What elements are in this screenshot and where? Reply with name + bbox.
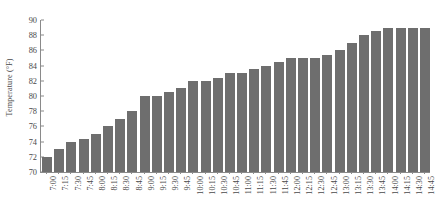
- x-axis-tick-label: 9:00: [147, 176, 156, 191]
- x-axis-tick-label: 9:15: [159, 176, 168, 191]
- x-axis-tick-mark: [265, 172, 266, 174]
- y-axis-tick-label: 72: [29, 152, 41, 161]
- x-axis-tick-label: 12:15: [305, 176, 314, 195]
- x-axis-tick-label: 11:15: [256, 176, 265, 194]
- bar: [335, 50, 345, 172]
- x-axis-line: [40, 172, 430, 173]
- x-axis-ticks: 7:007:157:307:458:008:158:308:459:009:15…: [40, 174, 430, 221]
- x-axis-tick-mark: [241, 172, 242, 174]
- x-axis-tick-mark: [58, 172, 59, 174]
- bar: [408, 28, 418, 172]
- y-axis-tick-label: 74: [29, 137, 41, 146]
- bar: [249, 69, 259, 172]
- x-axis-tick-label: 7:30: [74, 176, 83, 191]
- x-axis-tick-mark: [131, 172, 132, 174]
- x-axis-tick-label: 13:45: [378, 176, 387, 195]
- x-axis-tick-label: 7:00: [49, 176, 58, 191]
- bar: [261, 66, 271, 172]
- x-axis-tick-mark: [46, 172, 47, 174]
- y-axis-tick-label: 76: [29, 122, 41, 131]
- x-axis-tick-mark: [290, 172, 291, 174]
- x-axis-tick-mark: [144, 172, 145, 174]
- bar: [54, 149, 64, 172]
- x-axis-tick-mark: [400, 172, 401, 174]
- x-axis-tick-mark: [156, 172, 157, 174]
- y-axis-tick-label: 90: [29, 16, 41, 25]
- x-axis-tick-mark: [205, 172, 206, 174]
- x-axis-tick-mark: [412, 172, 413, 174]
- bar: [371, 31, 381, 172]
- bar: [322, 55, 332, 172]
- bar: [79, 139, 89, 172]
- x-axis-tick-label: 9:30: [171, 176, 180, 191]
- x-axis-tick-mark: [314, 172, 315, 174]
- y-axis-tick-label: 88: [29, 31, 41, 40]
- x-axis-tick-label: 7:45: [86, 176, 95, 191]
- bar: [274, 62, 284, 172]
- bar: [237, 73, 247, 172]
- x-axis-tick-label: 14:30: [415, 176, 424, 195]
- y-axis-title: Temperature (°F): [0, 0, 18, 175]
- bar: [347, 43, 357, 172]
- y-axis-tick-label: 80: [29, 92, 41, 101]
- y-axis-tick-label: 84: [29, 61, 41, 70]
- x-axis-tick-mark: [253, 172, 254, 174]
- bar: [213, 78, 223, 172]
- bar: [140, 96, 150, 172]
- x-axis-tick-mark: [302, 172, 303, 174]
- x-axis-tick-label: 8:30: [122, 176, 131, 191]
- x-axis-tick-mark: [180, 172, 181, 174]
- x-axis-tick-label: 13:30: [366, 176, 375, 195]
- x-axis-tick-mark: [351, 172, 352, 174]
- x-axis-tick-label: 14:15: [403, 176, 412, 195]
- bar: [42, 157, 52, 172]
- x-axis-tick-label: 10:15: [208, 176, 217, 195]
- bar: [420, 28, 430, 172]
- x-axis-tick-mark: [387, 172, 388, 174]
- x-axis-tick-label: 7:15: [61, 176, 70, 191]
- x-axis-tick-mark: [119, 172, 120, 174]
- plot-area: 7072747678808284868890: [40, 20, 430, 172]
- bar: [127, 111, 137, 172]
- bar: [396, 28, 406, 172]
- bar: [286, 58, 296, 172]
- x-axis-tick-mark: [192, 172, 193, 174]
- x-axis-tick-label: 13:00: [342, 176, 351, 195]
- bar: [201, 81, 211, 172]
- bar: [176, 88, 186, 172]
- x-axis-tick-label: 8:00: [98, 176, 107, 191]
- bar: [298, 58, 308, 172]
- x-axis-tick-mark: [70, 172, 71, 174]
- bar: [188, 81, 198, 172]
- x-axis-tick-mark: [168, 172, 169, 174]
- bar: [103, 126, 113, 172]
- x-axis-tick-label: 13:15: [354, 176, 363, 195]
- x-axis-tick-label: 11:00: [244, 176, 253, 194]
- y-axis-tick-label: 86: [29, 46, 41, 55]
- x-axis-tick-mark: [326, 172, 327, 174]
- x-axis-tick-mark: [424, 172, 425, 174]
- x-axis-tick-label: 14:45: [427, 176, 436, 195]
- x-axis-tick-mark: [363, 172, 364, 174]
- x-axis-tick-label: 10:00: [196, 176, 205, 195]
- y-axis-tick-label: 82: [29, 76, 41, 85]
- x-axis-tick-label: 11:30: [269, 176, 278, 194]
- bar: [310, 58, 320, 172]
- x-axis-tick-label: 8:15: [110, 176, 119, 191]
- x-axis-tick-label: 12:30: [317, 176, 326, 195]
- x-axis-tick-label: 9:45: [183, 176, 192, 191]
- x-axis-tick-mark: [83, 172, 84, 174]
- y-axis-tick-label: 78: [29, 107, 41, 116]
- x-axis-tick-label: 10:30: [220, 176, 229, 195]
- bar: [91, 134, 101, 172]
- y-axis-title-label: Temperature (°F): [5, 58, 14, 116]
- bar: [164, 92, 174, 172]
- x-axis-tick-mark: [229, 172, 230, 174]
- x-axis-tick-label: 14:00: [391, 176, 400, 195]
- x-axis-tick-label: 12:45: [330, 176, 339, 195]
- bar: [115, 119, 125, 172]
- bar: [383, 28, 393, 172]
- bar: [225, 73, 235, 172]
- bar-chart: Temperature (°F) 7072747678808284868890 …: [0, 0, 443, 221]
- x-axis-tick-mark: [107, 172, 108, 174]
